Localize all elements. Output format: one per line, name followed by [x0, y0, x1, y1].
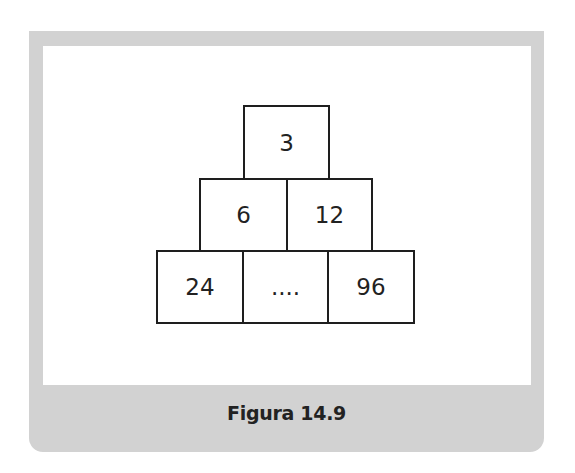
pyramid-cell-middle-left: 6	[199, 178, 288, 252]
pyramid-cell-bottom-middle: ....	[242, 250, 329, 324]
pyramid-cell-middle-right: 12	[286, 178, 373, 252]
pyramid-cell-top: 3	[243, 105, 330, 180]
pyramid-cell-bottom-left: 24	[156, 250, 244, 324]
figure-caption: Figura 14.9	[29, 402, 544, 424]
pyramid-cell-bottom-right: 96	[327, 250, 415, 324]
